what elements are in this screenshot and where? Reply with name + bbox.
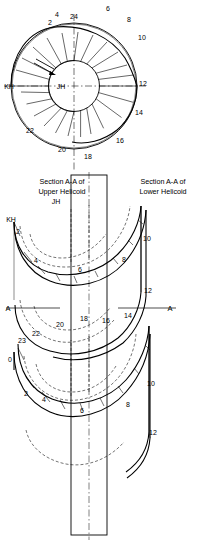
elev-label-20: 20 <box>56 321 64 328</box>
elev-label-14: 14 <box>124 312 132 319</box>
elev-label-12b: 12 <box>149 429 157 436</box>
elev-label-12a: 12 <box>144 287 152 294</box>
caption-lower-line1: Section A-A of <box>140 177 185 186</box>
elev-label-4b: 4 <box>42 396 46 403</box>
plan-label-11: 22 <box>26 127 34 134</box>
caption-upper-line1: Section A-A of <box>39 177 84 186</box>
captions: Section A-A of Upper Helicoid Section A-… <box>38 177 186 196</box>
elev-label-10b: 10 <box>147 380 155 387</box>
elev-label-6a: 6 <box>78 266 82 273</box>
plan-label-0: 24 <box>70 13 78 20</box>
plan-label-9: 18 <box>84 153 92 160</box>
elevation-view: JH KH 2 4 6 8 10 12 14 16 18 20 22 23 0 … <box>5 172 176 540</box>
elev-label-4a: 4 <box>34 257 38 264</box>
plan-label-3: 6 <box>106 5 110 12</box>
lower-helicoid-generators <box>18 346 150 438</box>
plan-label-7: 14 <box>135 109 143 116</box>
elev-label-10a: 10 <box>143 235 151 242</box>
plan-centre-lines <box>4 14 146 172</box>
drawing-canvas: 24 2 4 6 8 10 12 14 16 18 20 22 KH JH Se… <box>0 0 221 545</box>
plan-label-kh: KH <box>4 83 14 90</box>
section-letter-left: A <box>5 304 10 313</box>
plan-label-2: 4 <box>55 11 59 18</box>
caption-upper-line2: Upper Helicoid <box>38 187 85 196</box>
elev-label-2a: 2 <box>16 228 20 235</box>
elev-label-6b: 6 <box>80 407 84 414</box>
elev-label-18: 18 <box>80 315 88 322</box>
helicoid-drawing: 24 2 4 6 8 10 12 14 16 18 20 22 KH JH Se… <box>0 0 221 545</box>
elev-label-23: 23 <box>18 337 26 344</box>
elev-label-2b: 2 <box>24 390 28 397</box>
plan-label-10: 20 <box>58 146 66 153</box>
elev-label-kh: KH <box>6 216 16 223</box>
plan-label-1: 2 <box>48 19 52 26</box>
plan-label-jh: JH <box>57 83 66 90</box>
caption-lower-line2: Lower Helicoid <box>139 187 186 196</box>
elev-label-0: 0 <box>8 356 12 363</box>
plan-label-5: 10 <box>138 34 146 41</box>
plan-label-6: 12 <box>139 80 147 87</box>
plan-label-4: 8 <box>127 16 131 23</box>
elev-label-16: 16 <box>102 317 110 324</box>
section-letter-right: A <box>167 304 172 313</box>
elev-label-jh: JH <box>52 198 61 205</box>
elev-label-8a: 8 <box>122 256 126 263</box>
plan-labels: 24 2 4 6 8 10 12 14 16 18 20 22 KH JH <box>4 5 147 160</box>
elev-label-22: 22 <box>32 330 40 337</box>
plan-label-8: 16 <box>116 137 124 144</box>
elev-label-8b: 8 <box>126 401 130 408</box>
